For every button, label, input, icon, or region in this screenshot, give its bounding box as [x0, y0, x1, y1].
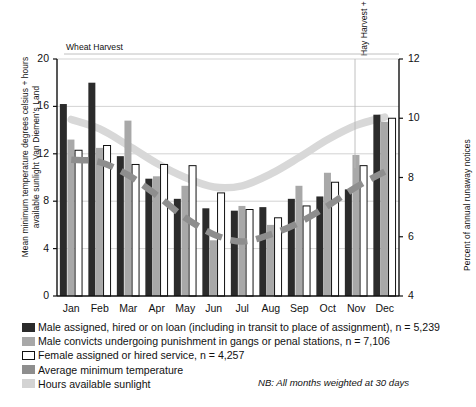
- y-axis-left-tick: 16: [27, 99, 49, 111]
- bar: [373, 115, 380, 296]
- bar: [218, 193, 225, 296]
- legend-item: Male assigned, hired or on loan (includi…: [22, 320, 462, 334]
- x-axis-month-label: Jan: [57, 302, 86, 314]
- bar: [88, 83, 95, 296]
- bar: [161, 164, 168, 296]
- legend-label: Average minimum temperature: [38, 363, 183, 377]
- legend-swatch-icon: [22, 365, 35, 374]
- x-axis-month-label: Dec: [371, 302, 400, 314]
- y-axis-left-tick: 0: [27, 289, 49, 301]
- footnote-weighting: NB: All months weighted at 30 days: [258, 377, 409, 388]
- legend-swatch-icon: [22, 351, 35, 360]
- legend-item: Average minimum temperature: [22, 363, 462, 377]
- x-axis-month-label: May: [171, 302, 200, 314]
- x-axis-month-label: Jul: [228, 302, 257, 314]
- bar: [60, 104, 67, 296]
- bar: [259, 207, 266, 296]
- bar: [117, 156, 124, 296]
- y-axis-right-tick: 12: [408, 52, 430, 64]
- x-axis-month-label: Oct: [314, 302, 343, 314]
- bar: [75, 150, 82, 296]
- bar: [352, 155, 359, 296]
- x-axis-month-label: Apr: [143, 302, 172, 314]
- bar: [202, 208, 209, 296]
- bar: [145, 179, 152, 296]
- bar: [324, 173, 331, 296]
- legend-label: Hours available sunlight: [38, 377, 150, 391]
- bar: [124, 121, 131, 296]
- y-axis-left-tick: 4: [27, 242, 49, 254]
- y-axis-left-tick: 8: [27, 194, 49, 206]
- legend-label: Female assigned or hired service, n = 4,…: [38, 348, 244, 362]
- bar: [231, 211, 238, 296]
- y-axis-left-tick: 12: [27, 147, 49, 159]
- bar: [132, 164, 139, 296]
- chart-container: Mean minimum temperature degrees celsius…: [0, 0, 476, 407]
- legend-item: Male convicts undergoing punishment in g…: [22, 334, 462, 348]
- legend-label: Male convicts undergoing punishment in g…: [38, 334, 390, 348]
- bar: [389, 118, 396, 296]
- bar: [189, 166, 196, 296]
- bar: [246, 210, 253, 297]
- y-axis-right-tick: 8: [408, 171, 430, 183]
- legend-label: Male assigned, hired or on loan (includi…: [38, 320, 440, 334]
- x-axis-month-label: Nov: [342, 302, 371, 314]
- legend-item: Female assigned or hired service, n = 4,…: [22, 348, 462, 362]
- y-axis-right-tick: 4: [408, 289, 430, 301]
- x-axis-month-label: Mar: [114, 302, 143, 314]
- legend-swatch-icon: [22, 323, 35, 332]
- x-axis-month-label: Sep: [285, 302, 314, 314]
- legend-swatch-icon: [22, 379, 35, 388]
- y-axis-left-tick: 20: [27, 52, 49, 64]
- y-axis-right-tick: 10: [408, 111, 430, 123]
- bar: [288, 199, 295, 296]
- bar: [381, 122, 388, 296]
- x-axis-month-label: Feb: [86, 302, 115, 314]
- bar: [238, 206, 245, 296]
- legend-swatch-icon: [22, 337, 35, 346]
- y-axis-right-tick: 6: [408, 230, 430, 242]
- x-axis-month-label: Aug: [257, 302, 286, 314]
- bar: [181, 186, 188, 296]
- bar: [96, 148, 103, 296]
- bar: [210, 240, 217, 296]
- bar: [345, 189, 352, 296]
- x-axis-month-label: Jun: [200, 302, 229, 314]
- bar: [295, 186, 302, 296]
